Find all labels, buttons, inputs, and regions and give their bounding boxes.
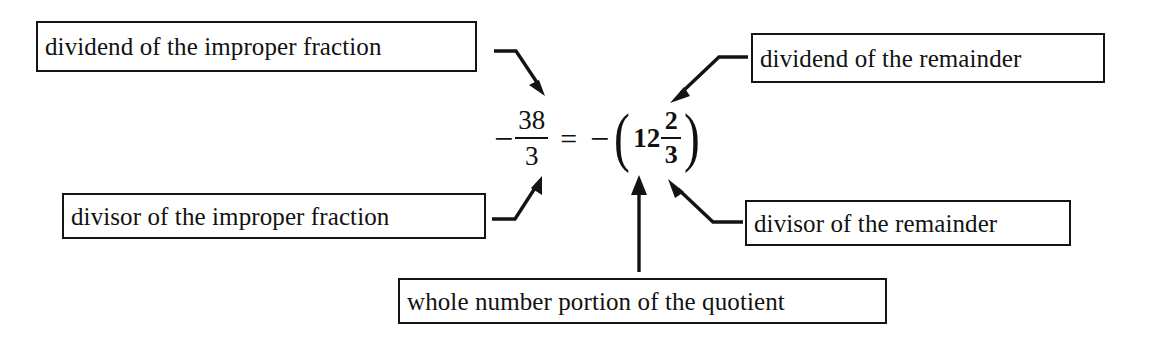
left-minus-sign: −	[494, 122, 513, 156]
mixed-fraction-bar	[661, 137, 681, 140]
label-text: dividend of the improper fraction	[45, 34, 382, 59]
mixed-number: 12 2 3	[633, 107, 681, 168]
equation: − 38 3 = − ( 12 2 3 )	[494, 96, 744, 180]
divisor-remainder-arrow	[668, 179, 743, 222]
mixed-fraction-denominator: 3	[663, 141, 680, 168]
close-paren: )	[684, 113, 700, 161]
left-fraction-denominator: 3	[522, 141, 542, 171]
label-box-dividend-of-improper-fraction: dividend of the improper fraction	[36, 21, 477, 72]
left-fraction-bar	[515, 137, 548, 139]
equals-sign: =	[560, 122, 577, 156]
whole-number-arrow	[631, 175, 647, 272]
left-fraction-numerator: 38	[515, 105, 548, 135]
left-fraction: 38 3	[515, 105, 548, 172]
label-box-dividend-of-remainder: dividend of the remainder	[751, 33, 1105, 83]
diagram-canvas: dividend of the improper fraction divide…	[0, 0, 1165, 342]
mixed-fraction: 2 3	[661, 107, 681, 168]
mixed-fraction-numerator: 2	[663, 107, 680, 134]
label-text: divisor of the remainder	[754, 211, 997, 236]
open-paren: (	[614, 113, 630, 161]
label-box-divisor-of-remainder: divisor of the remainder	[745, 200, 1071, 246]
dividend-improper-arrow	[494, 51, 545, 96]
label-text: whole number portion of the quotient	[407, 289, 785, 314]
label-box-whole-number-portion-of-quotient: whole number portion of the quotient	[398, 278, 887, 324]
label-text: dividend of the remainder	[760, 46, 1021, 71]
mixed-whole-part: 12	[633, 125, 660, 152]
label-box-divisor-of-improper-fraction: divisor of the improper fraction	[62, 193, 486, 239]
right-minus-sign: −	[590, 122, 609, 156]
label-text: divisor of the improper fraction	[71, 204, 389, 229]
divisor-improper-arrow	[492, 176, 542, 219]
